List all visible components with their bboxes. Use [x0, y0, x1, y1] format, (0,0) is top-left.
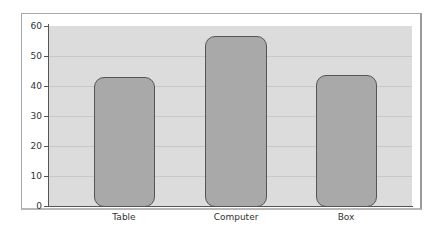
y-tick-label: 40	[20, 81, 42, 91]
y-tick-label: 0	[20, 201, 42, 211]
y-tick-label: 30	[20, 111, 42, 121]
x-label-box: Box	[306, 212, 386, 222]
y-tick	[44, 206, 48, 207]
y-tick	[44, 56, 48, 57]
bar-computer	[205, 36, 267, 207]
y-tick	[44, 176, 48, 177]
y-tick	[44, 86, 48, 87]
bar-box	[316, 75, 377, 207]
y-tick-label: 10	[20, 171, 42, 181]
y-tick-label: 20	[20, 141, 42, 151]
y-tick	[44, 116, 48, 117]
y-tick	[44, 146, 48, 147]
x-label-table: Table	[84, 212, 164, 222]
bar-table	[94, 77, 155, 207]
y-axis	[48, 24, 49, 207]
y-tick	[44, 26, 48, 27]
x-axis	[48, 206, 413, 207]
y-tick-label: 60	[20, 21, 42, 31]
x-label-computer: Computer	[196, 212, 276, 222]
y-tick-label: 50	[20, 51, 42, 61]
